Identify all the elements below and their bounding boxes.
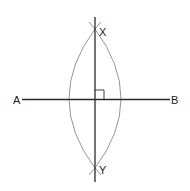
label-a: A — [13, 94, 21, 106]
label-y: Y — [99, 164, 107, 176]
label-x: X — [99, 26, 107, 38]
perpendicular-bisector-diagram: A B X Y — [0, 0, 190, 191]
right-angle-marker-icon — [95, 90, 104, 100]
arc-cross-y-left — [89, 168, 95, 175]
arc-cross-x-left — [89, 22, 95, 29]
left-arc — [69, 29, 95, 168]
label-b: B — [171, 94, 178, 106]
right-arc — [95, 29, 121, 168]
